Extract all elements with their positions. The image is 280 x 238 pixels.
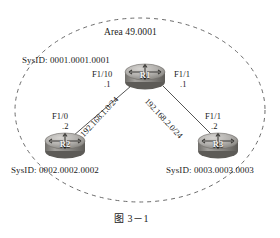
interface-address-r2-f1-0: .2 bbox=[62, 122, 69, 131]
network-topology-diagram: R1 R2 R3 Area 49.0001 SysID: 0001.0001.0… bbox=[0, 0, 280, 238]
interface-address-r3-f1-1: .2 bbox=[211, 122, 218, 131]
interface-label-r3-f1-1: F1/1 bbox=[205, 112, 221, 121]
sysid-label-r3: SysID: 0003.0003.0003 bbox=[166, 166, 254, 175]
sysid-label-r1: SysID: 0001.0001.0001 bbox=[22, 56, 110, 65]
interface-address-r1-f1-10: .1 bbox=[104, 80, 111, 89]
router-r1-name: R1 bbox=[123, 70, 167, 80]
figure-caption: 图 3－1 bbox=[114, 214, 149, 224]
router-r2-name: R2 bbox=[43, 139, 87, 149]
router-r1[interactable]: R1 bbox=[123, 62, 167, 92]
interface-label-r2-f1-0: F1/0 bbox=[52, 112, 68, 121]
interface-label-r1-f1-1: F1/1 bbox=[174, 70, 190, 79]
interface-address-r1-f1-1: .1 bbox=[180, 80, 187, 89]
area-label: Area 49.0001 bbox=[104, 28, 157, 38]
interface-label-r1-f1-10: F1/10 bbox=[92, 70, 112, 79]
sysid-label-r2: SysID: 0002.0002.0002 bbox=[11, 166, 99, 175]
router-r3-name: R3 bbox=[196, 139, 240, 149]
router-r2[interactable]: R2 bbox=[43, 131, 87, 161]
router-r3[interactable]: R3 bbox=[196, 131, 240, 161]
